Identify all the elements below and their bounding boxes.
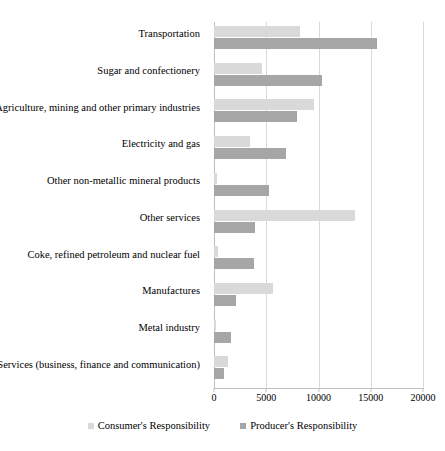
chart-row: Metal industry — [214, 316, 423, 353]
x-tick-label: 15000 — [358, 392, 383, 404]
bar-consumer — [214, 26, 300, 37]
category-label: Coke, refined petroleum and nuclear fuel — [0, 249, 200, 261]
bar-producer — [214, 75, 322, 86]
gridline — [423, 22, 424, 389]
bar-producer — [214, 38, 377, 49]
bar-producer — [214, 295, 236, 306]
legend-swatch-icon — [88, 423, 94, 429]
bar-consumer — [214, 173, 217, 184]
chart-row: Transportation — [214, 22, 423, 59]
bar-consumer — [214, 320, 216, 331]
chart-row: Electricity and gas — [214, 132, 423, 169]
legend-swatch-icon — [240, 423, 246, 429]
category-label: Other non-metallic mineral products — [0, 175, 200, 187]
bar-producer — [214, 185, 269, 196]
bar-producer — [214, 332, 231, 343]
category-label: Electricity and gas — [0, 138, 200, 150]
x-tick-label: 20000 — [411, 392, 436, 404]
chart-row: Sugar and confectionery — [214, 59, 423, 96]
legend-item: Producer's Responsibility — [240, 419, 357, 432]
bar-producer — [214, 222, 255, 233]
chart-row: Other services — [214, 206, 423, 243]
chart-legend: Consumer's ResponsibilityProducer's Resp… — [0, 419, 445, 432]
bar-consumer — [214, 210, 355, 221]
category-label: Transportation — [0, 28, 200, 40]
chart-row: Agriculture, mining and other primary in… — [214, 95, 423, 132]
bar-consumer — [214, 283, 273, 294]
bar-consumer — [214, 63, 262, 74]
x-tick-label: 10000 — [306, 392, 331, 404]
category-label: Sugar and confectionery — [0, 65, 200, 77]
bar-consumer — [214, 136, 250, 147]
chart-row: Manufactures — [214, 279, 423, 316]
bar-consumer — [214, 356, 228, 367]
chart-row: Other non-metallic mineral products — [214, 169, 423, 206]
bar-producer — [214, 258, 254, 269]
bar-chart: TransportationSugar and confectioneryAgr… — [0, 0, 445, 451]
category-label: Other services — [0, 212, 200, 224]
plot-area: TransportationSugar and confectioneryAgr… — [214, 22, 423, 389]
legend-label: Producer's Responsibility — [250, 419, 357, 432]
bar-producer — [214, 368, 224, 379]
bar-consumer — [214, 99, 314, 110]
category-label: Metal industry — [0, 322, 200, 334]
x-tick-label: 5000 — [256, 392, 276, 404]
legend-item: Consumer's Responsibility — [88, 419, 210, 432]
bar-consumer — [214, 246, 218, 257]
x-axis-tick-labels: 05000100001500020000 — [214, 392, 423, 406]
legend-label: Consumer's Responsibility — [98, 419, 210, 432]
bar-producer — [214, 148, 286, 159]
chart-row: Coke, refined petroleum and nuclear fuel — [214, 242, 423, 279]
category-label: Services (business, finance and communic… — [0, 359, 200, 371]
chart-row: Services (business, finance and communic… — [214, 352, 423, 389]
x-tick-label: 0 — [212, 392, 217, 404]
bar-producer — [214, 111, 297, 122]
category-label: Agriculture, mining and other primary in… — [0, 102, 200, 114]
category-label: Manufactures — [0, 285, 200, 297]
